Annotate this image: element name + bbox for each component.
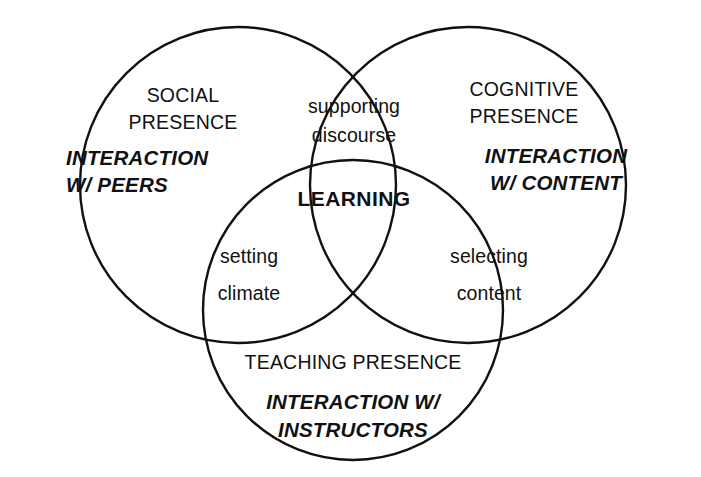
- cognitive-presence-heading-line2: PRESENCE: [470, 107, 579, 127]
- social-presence-emphasis-line1: INTERACTION: [66, 148, 208, 169]
- venn-diagram: SOCIAL PRESENCE INTERACTION W/ PEERS COG…: [0, 0, 701, 477]
- teaching-presence-emphasis-line1: INTERACTION W/: [266, 392, 440, 413]
- social-presence-emphasis-line2: W/ PEERS: [66, 175, 168, 196]
- cognitive-presence-heading-line1: COGNITIVE: [469, 80, 578, 100]
- supporting-discourse-line1: supporting: [308, 97, 400, 117]
- teaching-presence-heading-line1: TEACHING PRESENCE: [245, 353, 462, 373]
- supporting-discourse-line2: discourse: [312, 126, 396, 146]
- selecting-content-line2: content: [457, 284, 522, 304]
- teaching-presence-emphasis-line2: INSTRUCTORS: [278, 420, 428, 441]
- setting-climate-line1: setting: [220, 247, 278, 267]
- social-presence-heading-line2: PRESENCE: [129, 113, 238, 133]
- selecting-content-line1: selecting: [450, 247, 528, 267]
- learning-center-label: LEARNING: [298, 188, 411, 209]
- social-presence-heading-line1: SOCIAL: [147, 86, 220, 106]
- cognitive-presence-emphasis-line1: INTERACTION: [485, 146, 627, 167]
- setting-climate-line2: climate: [218, 284, 280, 304]
- cognitive-presence-emphasis-line2: W/ CONTENT: [490, 173, 622, 194]
